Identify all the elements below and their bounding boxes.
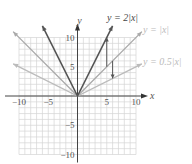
y-tick-label: −10: [60, 150, 75, 160]
x-tick-label: 10: [132, 97, 142, 107]
absolute-value-graph: −10−5510105−5−10xyy = 2|x|y = |x|y = 0.5…: [0, 0, 192, 164]
x-axis-arrow-icon: [141, 94, 148, 99]
y-axis-label: y: [76, 15, 82, 26]
series-label: y = 2|x|: [106, 12, 138, 23]
y-tick-label: 5: [70, 62, 75, 72]
x-axis-label: x: [149, 90, 155, 101]
y-tick-label: 10: [66, 33, 76, 43]
y-tick-label: −5: [65, 120, 75, 130]
x-tick-label: −5: [43, 97, 53, 107]
series-label: y = 0.5|x|: [142, 56, 182, 67]
series-label: y = |x|: [142, 24, 169, 35]
x-tick-label: 5: [105, 97, 110, 107]
x-tick-label: −10: [12, 97, 27, 107]
